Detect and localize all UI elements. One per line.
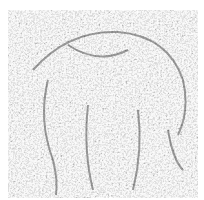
noise-texture bbox=[8, 10, 198, 198]
noise-image bbox=[8, 10, 198, 198]
